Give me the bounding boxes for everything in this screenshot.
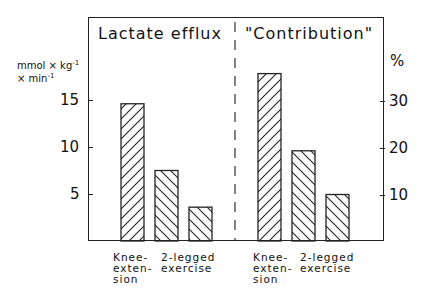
left-tick-label: 15 xyxy=(60,93,79,108)
bar xyxy=(155,171,178,242)
left-tick-label: 10 xyxy=(60,140,79,155)
category-label: 2-legged exercise xyxy=(300,252,354,274)
left-tick-15 xyxy=(88,100,93,101)
right-tick-20 xyxy=(380,148,385,149)
bar xyxy=(292,151,315,241)
right-tick-label: 30 xyxy=(389,94,408,109)
bar xyxy=(189,207,212,241)
left-axis-unit: mmol × kg-1 × min-1 xyxy=(17,58,79,85)
left-panel-title: Lactate efflux xyxy=(98,25,222,43)
right-tick-10 xyxy=(380,195,385,196)
right-panel-title: "Contribution" xyxy=(245,25,373,43)
bar xyxy=(326,195,349,242)
left-tick-label: 5 xyxy=(70,187,80,202)
right-tick-label: 20 xyxy=(389,141,408,156)
left-tick-5 xyxy=(88,194,93,195)
unit-sup: -1 xyxy=(47,72,54,80)
unit-text: mmol × kg xyxy=(17,60,72,71)
right-tick-label: 10 xyxy=(389,188,408,203)
right-axis-unit: % xyxy=(390,52,404,70)
unit-text: × min xyxy=(17,74,47,85)
category-label: Knee- exten- sion xyxy=(253,252,293,285)
left-tick-10 xyxy=(88,147,93,148)
bar xyxy=(258,74,281,241)
category-label: Knee- exten- sion xyxy=(113,252,153,285)
category-label: 2-legged exercise xyxy=(161,252,215,274)
right-tick-30 xyxy=(380,101,385,102)
unit-sup: -1 xyxy=(72,59,79,67)
bar xyxy=(121,104,144,241)
